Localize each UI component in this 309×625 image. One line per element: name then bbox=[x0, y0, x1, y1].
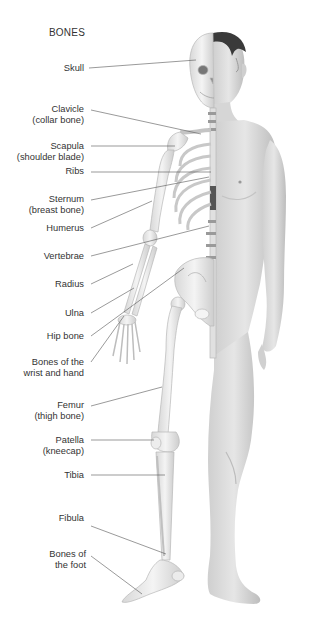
label-tibia: Tibia bbox=[64, 470, 84, 481]
leader-fibula bbox=[91, 526, 166, 554]
leader-clavicle bbox=[91, 110, 201, 134]
label-humerus: Humerus bbox=[46, 223, 84, 234]
label-vertebrae: Vertebrae bbox=[44, 251, 84, 262]
label-ribs: Ribs bbox=[65, 166, 84, 177]
label-foot: Bones of the foot bbox=[49, 549, 86, 571]
label-clavicle: Clavicle (collar bone) bbox=[32, 104, 84, 126]
leader-femur bbox=[91, 387, 162, 406]
leader-radius bbox=[91, 264, 133, 284]
leader-wrist-hand bbox=[91, 316, 124, 362]
diagram-title: BONES bbox=[49, 27, 85, 38]
label-patella: Patella (kneecap) bbox=[43, 435, 84, 457]
leader-skull bbox=[89, 60, 196, 68]
leader-lines bbox=[89, 60, 211, 594]
skin-half bbox=[208, 32, 286, 604]
leader-sternum bbox=[91, 177, 209, 200]
label-wrist-hand: Bones of the wrist and hand bbox=[24, 357, 84, 379]
leader-humerus bbox=[91, 201, 152, 228]
label-femur: Femur (thigh bone) bbox=[34, 400, 84, 422]
skeleton-diagram: BONES Skull Clavicle (collar bone) Scapu… bbox=[0, 0, 309, 625]
label-radius: Radius bbox=[55, 279, 84, 290]
label-fibula: Fibula bbox=[59, 513, 84, 524]
label-hip-bone: Hip bone bbox=[47, 331, 84, 342]
label-scapula: Scapula (shoulder blade) bbox=[17, 141, 84, 163]
label-ulna: Ulna bbox=[65, 308, 84, 319]
human-figure-illustration bbox=[0, 0, 309, 625]
label-skull: Skull bbox=[64, 63, 84, 74]
leader-foot bbox=[91, 556, 142, 594]
label-sternum: Sternum (breast bone) bbox=[29, 194, 84, 216]
